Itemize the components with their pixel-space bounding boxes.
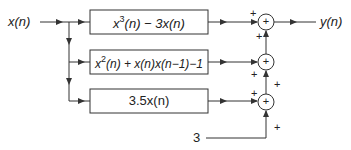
summer-1-sign-bottom: +	[256, 31, 262, 42]
summer-1-sign-left: +	[250, 8, 256, 19]
block-middle-text: x2(n) + x(n)x(n−1)−1	[90, 55, 208, 70]
summer-2-sign-left: +	[251, 69, 257, 80]
summer-2-symbol: +	[258, 56, 274, 67]
summer-3-symbol: +	[258, 96, 274, 107]
block-bottom-text: 3.5x(n)	[90, 94, 208, 107]
output-label: y(n)	[320, 15, 342, 28]
summer-3-sign-left: +	[251, 88, 257, 99]
summer-1-symbol: +	[258, 16, 274, 27]
summer-2-sign-bottom: +	[274, 79, 280, 90]
summer-3-sign-bottom: +	[274, 122, 280, 133]
input-label: x(n)	[8, 15, 30, 28]
block-top-text: x3(n) − 3x(n)	[90, 15, 208, 30]
constant-input-label: 3	[193, 131, 200, 144]
